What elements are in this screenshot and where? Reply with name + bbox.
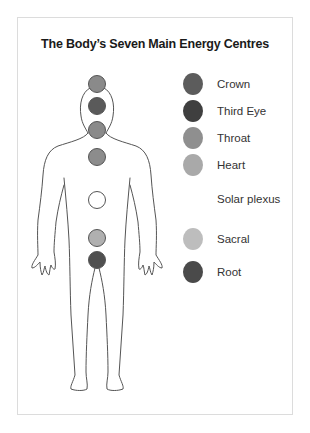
legend-item-solar-plexus: Solar plexus	[183, 188, 203, 210]
legend-label: Root	[217, 266, 241, 278]
sacral-swatch-icon	[183, 228, 203, 250]
body-chakra-root-icon	[88, 251, 106, 269]
legend-item-root: Root	[183, 261, 203, 283]
legend-item-crown: Crown	[183, 73, 203, 95]
legend-label: Throat	[217, 132, 250, 144]
body-chakra-sacral-icon	[88, 229, 106, 247]
body-chakra-solar-plexus-icon	[88, 191, 106, 209]
root-swatch-icon	[183, 261, 203, 283]
heart-swatch-icon	[183, 154, 203, 176]
legend-label: Crown	[217, 78, 250, 90]
third-eye-swatch-icon	[183, 100, 203, 122]
body-chakra-throat-icon	[88, 121, 106, 139]
legend-label: Sacral	[217, 233, 250, 245]
legend-item-third-eye: Third Eye	[183, 100, 203, 122]
body-chakra-heart-icon	[88, 148, 106, 166]
legend-item-throat: Throat	[183, 127, 203, 149]
legend-label: Heart	[217, 159, 245, 171]
legend-label: Solar plexus	[217, 193, 280, 205]
body-chakra-crown-icon	[88, 75, 106, 93]
legend-item-sacral: Sacral	[183, 228, 203, 250]
crown-swatch-icon	[183, 73, 203, 95]
legend-item-heart: Heart	[183, 154, 203, 176]
throat-swatch-icon	[183, 127, 203, 149]
body-chakra-third-eye-icon	[88, 97, 106, 115]
solar-plexus-swatch-icon	[183, 188, 203, 210]
human-body-outline	[0, 0, 310, 433]
legend-label: Third Eye	[217, 105, 266, 117]
